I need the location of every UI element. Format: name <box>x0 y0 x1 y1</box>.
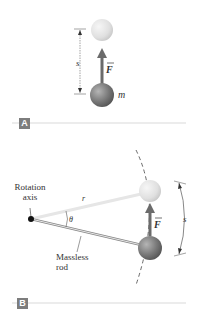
displacement-label: s <box>76 58 80 68</box>
rotation-axis-label-1: Rotation <box>15 182 46 192</box>
arc-path <box>136 150 150 285</box>
panel-b-tag: B <box>17 298 28 309</box>
arc-length-label: s <box>183 214 187 224</box>
radius-label: r <box>82 194 86 203</box>
ball-final-position <box>139 180 161 202</box>
angle-arc <box>66 211 68 227</box>
rotation-axis-label-2: axis <box>23 192 38 202</box>
force-label: F <box>153 219 161 230</box>
rotation-axis-point <box>28 216 34 222</box>
panel-a: s F m <box>74 19 125 107</box>
panel-b: r θ Rotation axis Massless rod F s <box>15 150 188 285</box>
panel-a-tag: A <box>19 118 30 129</box>
massless-rod <box>31 219 150 247</box>
ball-initial-position <box>138 236 162 260</box>
figure-canvas: s F m r θ Rotation axis Massless rod <box>0 0 198 324</box>
massless-rod-label-1: Massless <box>56 252 89 262</box>
angle-label: θ <box>69 215 73 224</box>
ball-final-position <box>91 19 113 41</box>
mass-label: m <box>118 89 125 100</box>
ball-initial-position <box>90 83 114 107</box>
force-label: F <box>105 64 113 75</box>
massless-rod-label-2: rod <box>56 262 68 272</box>
radius-line <box>31 192 150 219</box>
